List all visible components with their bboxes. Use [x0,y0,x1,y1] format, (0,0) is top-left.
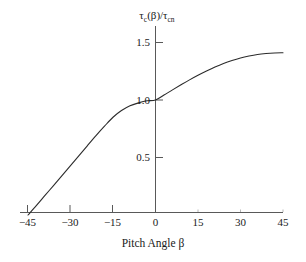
x-axis-ticks [28,205,284,212]
y-tick-label-1-0: 1.0 [116,94,150,106]
y-axis-title: τc(β)/τcn [112,9,202,22]
x-tick-label-minus30: −30 [50,216,90,228]
x-tick-label-zero: 0 [136,216,176,228]
y-axis-title-sub1: c [144,15,147,24]
x-tick-label-15: 15 [178,216,218,228]
x-axis-title: Pitch Angle β [53,236,253,250]
chart-figure: τc(β)/τcn 1.5 1.0 0.5 −45 −30 −15 0 15 3… [0,0,306,262]
x-tick-label-minus15: −15 [93,216,133,228]
y-tick-label-0-5: 0.5 [116,151,150,163]
y-tick-label-1-5: 1.5 [116,36,150,48]
y-axis-title-arg: (β)/ [147,9,163,21]
y-axis-title-tau2: τ [163,9,167,21]
y-axis-ticks [156,43,163,158]
x-tick-label-30: 30 [221,216,261,228]
x-tick-label-minus45: −45 [8,216,48,228]
y-axis-title-sub2: cn [168,15,175,24]
x-tick-label-45: 45 [263,216,303,228]
